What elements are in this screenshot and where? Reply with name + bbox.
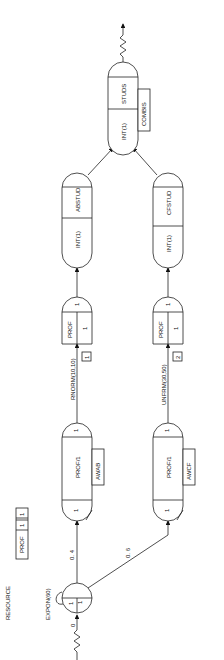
svg-text:PROF/1: PROF/1 [75,456,81,478]
upper-free-node: PROF 1 1 [62,297,92,344]
svg-text:AWAB: AWAB [95,463,101,480]
network-diagram: RESOURCE PROF 1 1 0 1 1 EXPON(60) 0. 4 0… [0,0,224,660]
svg-text:CFSTUD: CFSTUD [166,190,172,215]
svg-text:INT(1): INT(1) [121,123,127,140]
svg-text:PROF: PROF [158,321,164,338]
lower-free-node: PROF 1 1 [153,297,183,344]
exit-zigzag-icon [120,24,126,62]
upper-assign-node: ABSTUD INT(1) [62,173,92,268]
diagram-canvas: RESOURCE PROF 1 1 0 1 1 EXPON(60) 0. 4 0… [0,0,224,660]
svg-text:PROF: PROF [67,321,73,338]
svg-text:INT(1): INT(1) [75,231,81,248]
svg-text:UNFRM(30,50): UNFRM(30,50) [161,364,167,405]
svg-text:0. 6: 0. 6 [125,547,131,558]
start-node: 0 1 1 EXPON(60) [45,583,92,660]
svg-text:PROF/1: PROF/1 [166,456,172,478]
svg-text:STUDS: STUDS [121,84,127,104]
collect-node: STUDS INT(1) COMBIS [108,62,150,155]
resource-title: RESOURCE [5,586,11,620]
lower-await-node: PROF/1 1 1 AWCF [153,423,195,521]
svg-text:INT(1): INT(1) [166,235,172,252]
zigzag-icon [74,630,80,660]
svg-text:EXPON(60): EXPON(60) [45,588,51,620]
svg-text:0: 0 [70,623,76,627]
svg-text:0. 4: 0. 4 [69,549,75,560]
svg-text:ABSTUD: ABSTUD [75,187,81,212]
upper-await-node: PROF/1 1 1 AWAB [62,423,104,521]
resource-block: RESOURCE PROF 1 1 [5,508,28,620]
svg-text:RNORM(10,10): RNORM(10,10) [70,358,76,400]
svg-text:AWCF: AWCF [186,462,192,480]
svg-text:COMBIS: COMBIS [141,102,147,126]
lower-assign-node: CFSTUD INT(1) [153,173,183,268]
resource-name: PROF [19,536,25,553]
